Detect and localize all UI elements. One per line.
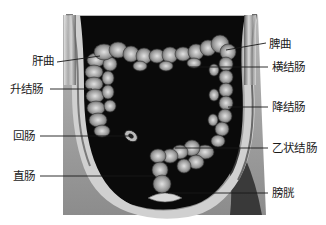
label-ascending-colon: 升结肠 <box>10 83 44 95</box>
label-ileum: 回肠 <box>13 130 35 142</box>
label-splenic-flexure: 脾曲 <box>269 38 291 50</box>
colon-anatomy-figure: 肝曲 升结肠 回肠 直肠 脾曲 横结肠 降结肠 乙状结肠 膀胱 <box>0 0 326 225</box>
label-sigmoid-colon: 乙状结肠 <box>272 142 317 154</box>
label-rectum: 直肠 <box>13 170 35 182</box>
label-transverse-colon: 横结肠 <box>272 61 306 73</box>
label-descending-colon: 降结肠 <box>272 101 306 113</box>
label-bladder: 膀胱 <box>272 187 294 199</box>
label-hepatic-flexure: 肝曲 <box>32 55 54 67</box>
